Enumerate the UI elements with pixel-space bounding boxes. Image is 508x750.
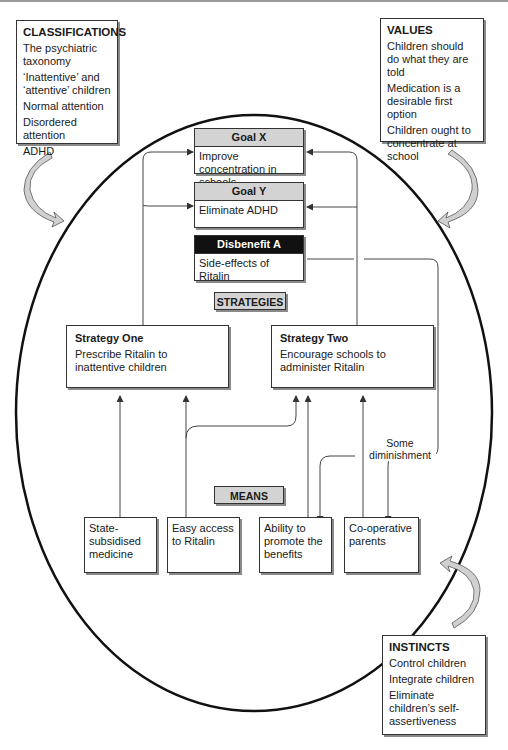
- strategy-two-box: Strategy Two Encourage schools to admini…: [271, 325, 434, 388]
- means-ability-promote: Ability to promote the benefits: [259, 517, 332, 573]
- connector-diminish-ability: [320, 456, 355, 522]
- connector-s2-goalx: [307, 152, 357, 334]
- curved-arrow-instincts: [440, 556, 480, 628]
- instinct-item: Eliminate children’s self-assertiveness: [389, 689, 479, 728]
- means-cooperative-parents: Co-operative parents: [344, 517, 419, 573]
- means-label: MEANS: [214, 486, 284, 504]
- strategy-two-text: Encourage schools to administer Ritalin: [280, 348, 425, 374]
- strategy-two-title: Strategy Two: [280, 332, 425, 345]
- disbenefit-a-title: Disbenefit A: [195, 236, 303, 254]
- means-text: Easy access to Ritalin: [172, 522, 234, 547]
- values-title: VALUES: [387, 24, 477, 37]
- diminishment-note: Some diminishment: [364, 437, 436, 461]
- connector-s1-goalx: [143, 152, 193, 334]
- means-text: State-subsidised medicine: [89, 522, 141, 560]
- classifications-title: CLASSIFICATIONS: [23, 26, 111, 39]
- means-state-subsidised: State-subsidised medicine: [84, 517, 157, 573]
- value-item: Children ought to concentrate at school: [387, 124, 477, 163]
- strategy-one-text: Prescribe Ritalin to inattentive childre…: [75, 348, 220, 374]
- connector-s1-goaly: [143, 205, 193, 206]
- classification-item: ‘Inattentive’ and ‘attentive’ children: [23, 71, 111, 97]
- means-easy-access: Easy access to Ritalin: [167, 517, 240, 573]
- goal-x-box: Goal X Improve concentration in schools: [194, 128, 304, 174]
- instinct-item: Control children: [389, 657, 479, 670]
- goal-y-text: Eliminate ADHD: [195, 201, 303, 220]
- instincts-box: INSTINCTS Control children Integrate chi…: [382, 635, 486, 735]
- means-text: Ability to promote the benefits: [264, 522, 323, 560]
- strategies-label: STRATEGIES: [214, 292, 286, 310]
- value-item: Medication is a desirable first option: [387, 82, 477, 121]
- curved-arrow-classifications: [24, 152, 64, 227]
- value-item: Children should do what they are told: [387, 40, 477, 79]
- disbenefit-a-text: Side-effects of Ritalin: [195, 254, 303, 286]
- instincts-title: INSTINCTS: [389, 641, 479, 654]
- goal-y-box: Goal Y Eliminate ADHD: [194, 182, 304, 228]
- connector-diminish-parents: [388, 456, 395, 522]
- goal-x-title: Goal X: [195, 129, 303, 147]
- means-text: Co-operative parents: [349, 522, 412, 547]
- classification-item: ADHD: [23, 145, 111, 158]
- classification-item: Normal attention: [23, 100, 111, 113]
- goal-y-title: Goal Y: [195, 183, 303, 201]
- classification-item: Disordered attention: [23, 116, 111, 142]
- classifications-box: CLASSIFICATIONS The psychiatric taxonomy…: [16, 20, 118, 144]
- values-box: VALUES Children should do what they are …: [380, 18, 484, 142]
- classification-item: The psychiatric taxonomy: [23, 42, 111, 68]
- disbenefit-a-box: Disbenefit A Side-effects of Ritalin: [194, 235, 304, 281]
- instinct-item: Integrate children: [389, 673, 479, 686]
- strategy-one-box: Strategy One Prescribe Ritalin to inatte…: [66, 325, 229, 388]
- connector-easy-s2: [186, 396, 296, 438]
- strategy-one-title: Strategy One: [75, 332, 220, 345]
